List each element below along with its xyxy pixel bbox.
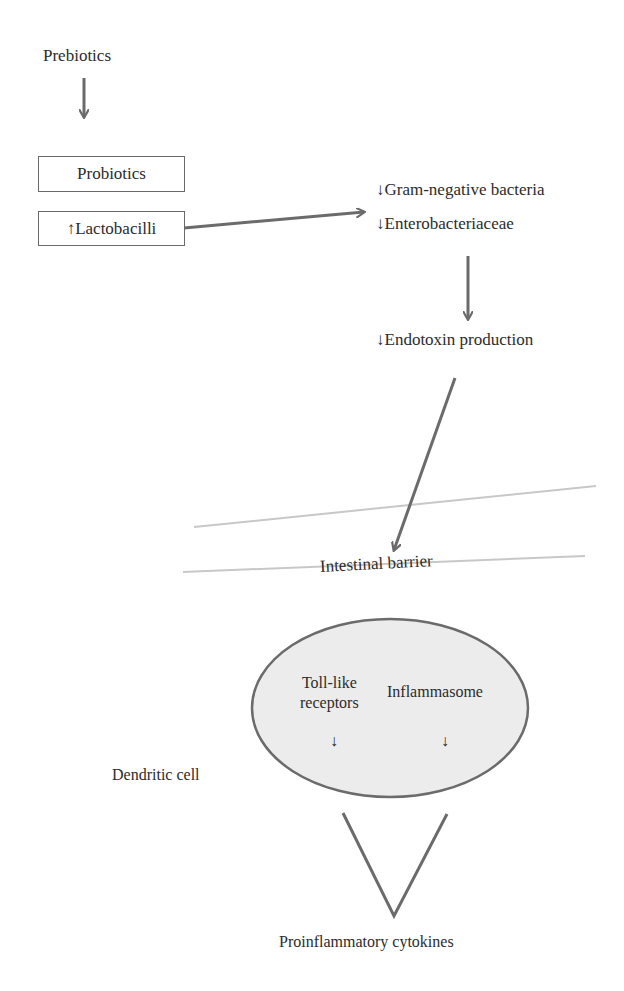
arrow-lactobacilli-to-bacteria — [184, 212, 364, 228]
diagram-connectors — [0, 0, 624, 991]
toll-like-line1: Toll-like — [300, 673, 359, 693]
node-lactobacilli-label: ↑Lactobacilli — [67, 219, 157, 239]
node-proinflammatory-cytokines: Proinflammatory cytokines — [279, 932, 454, 952]
node-toll-like-receptors: Toll-like receptors — [300, 673, 359, 713]
arrow-endotoxin-to-barrier — [394, 378, 455, 550]
intestinal-barrier-upper-line — [194, 486, 596, 527]
node-gram-negative: ↓Gram-negative bacteria — [376, 180, 545, 200]
node-prebiotics: Prebiotics — [43, 46, 111, 66]
dendritic-cell-ellipse — [252, 619, 528, 797]
node-dendritic-cell: Dendritic cell — [112, 765, 200, 785]
cytokines-funnel — [343, 813, 447, 916]
node-inflammasome: Inflammasome — [387, 682, 483, 702]
node-probiotics-box: Probiotics — [38, 156, 185, 192]
node-endotoxin: ↓Endotoxin production — [376, 330, 533, 350]
toll-like-down-arrow-icon: ↓ — [330, 731, 338, 751]
inflammasome-down-arrow-icon: ↓ — [441, 731, 449, 751]
toll-like-line2: receptors — [300, 693, 359, 713]
node-probiotics-label: Probiotics — [77, 164, 146, 184]
node-lactobacilli-box: ↑Lactobacilli — [38, 211, 185, 246]
node-enterobacteriaceae: ↓Enterobacteriaceae — [376, 214, 514, 234]
